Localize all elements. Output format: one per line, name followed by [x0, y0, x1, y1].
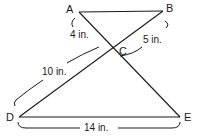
- segment-bd: [19, 11, 163, 117]
- segment-ae: [79, 12, 180, 117]
- brace-bc: [165, 21, 168, 28]
- measurement-bc: 5 in.: [143, 34, 162, 45]
- segment-ab: [79, 11, 163, 12]
- brace-de-left: [18, 122, 80, 128]
- point-label-b: B: [166, 2, 173, 14]
- brace-de-right: [118, 122, 180, 128]
- measurement-ac: 4 in.: [70, 29, 89, 40]
- measurement-dc: 10 in.: [42, 66, 66, 77]
- measurement-de: 14 in.: [84, 122, 108, 133]
- brace-ac: [72, 18, 75, 27]
- point-label-d: D: [6, 111, 14, 123]
- point-label-e: E: [184, 111, 191, 123]
- point-label-a: A: [66, 3, 74, 15]
- point-label-c: C: [119, 45, 127, 57]
- similar-triangles-diagram: A B C D E 4 in. 5 in. 10 in. 14 in.: [0, 0, 201, 140]
- brace-dc: [67, 47, 99, 63]
